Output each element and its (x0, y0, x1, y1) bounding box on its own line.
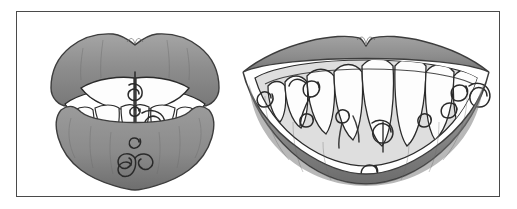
illustration-frame (16, 11, 500, 197)
panel-right-mouth (235, 24, 497, 194)
panel-left-mouth (35, 18, 235, 196)
illustration-canvas: Two decorated mouths illustration Graysc… (0, 0, 517, 209)
